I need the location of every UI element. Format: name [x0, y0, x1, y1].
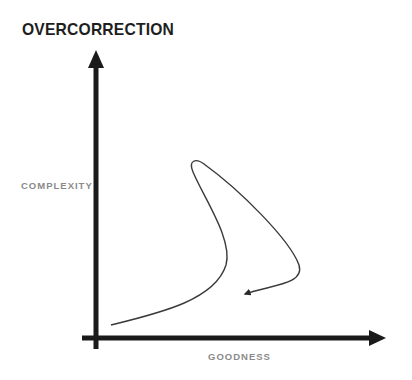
y-axis	[88, 50, 104, 349]
overcorrection-curve	[111, 161, 300, 325]
y-axis-arrow-icon	[88, 50, 104, 68]
x-axis-arrow-icon	[369, 330, 386, 346]
diagram-plot	[0, 0, 412, 380]
x-axis	[82, 330, 386, 346]
